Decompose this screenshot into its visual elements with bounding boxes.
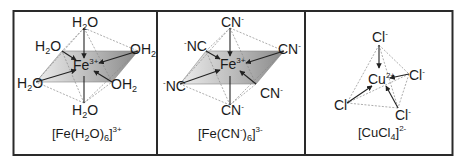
ligand-cl-top: Cl- [372,29,388,45]
ligand-h2o-left: H2O [17,75,43,93]
ligand-cl-left: Cl- [334,97,350,113]
caption-fe-cn6: [Fe(CN-)6]3- [198,125,263,143]
ligand-cl-bottom: Cl- [395,107,411,123]
ligand-nc-left: -NC [163,78,186,94]
panel-fe-cn6: CN- -NC CN- -NC CN- CN- Fe3+ [Fe(CN-)6]3… [163,14,301,143]
coordination-complexes-figure: H2O H2O OH2 H2O OH2 H2O Fe3+ [Fe(H2O)6]3… [0,0,461,164]
ligand-cn-top: CN- [221,14,244,30]
center-ion-cu: Cu2+ [368,71,395,87]
ligand-h2o-upper-left: H2O [35,38,61,56]
ligand-cn-upper-right: CN- [278,41,301,57]
ligand-h2o-top: H2O [72,14,98,32]
ligand-oh2-lower-right: OH2 [111,76,137,94]
panel-cucl4: Cl- Cl- Cl- Cl- Cu2+ [CuCl4]2- [334,29,425,142]
ligand-oh2-upper-right: OH2 [130,41,156,59]
ligand-nc-upper-left: -NC [184,38,207,54]
ligand-cn-lower-right: CN- [260,85,283,101]
ligand-cn-bottom: CN- [221,102,244,118]
panel-fe-h2o6: H2O H2O OH2 H2O OH2 H2O Fe3+ [Fe(H2O)6]3… [17,14,156,143]
caption-cucl4: [CuCl4]2- [358,124,407,142]
ligand-h2o-bottom: H2O [72,102,98,120]
caption-fe-h2o6: [Fe(H2O)6]3+ [52,125,122,143]
ligand-cl-right: Cl- [409,67,425,83]
